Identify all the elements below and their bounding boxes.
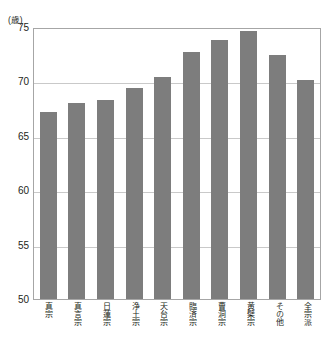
bar-chart-figure: (歳) 505560657075 真宗真言宗日蓮宗浄土宗天台宗臨済宗曹洞宗黄檗宗…	[0, 0, 329, 346]
bar-9	[297, 80, 314, 299]
bar-wrapper	[91, 29, 120, 299]
bar-wrapper	[177, 29, 206, 299]
bar-wrapper	[148, 29, 177, 299]
y-tick-label-60: 60	[1, 186, 29, 196]
bar-3	[126, 88, 143, 299]
y-tick-label-65: 65	[1, 132, 29, 142]
bar-series	[34, 29, 320, 299]
y-tick-label-50: 50	[1, 295, 29, 305]
bar-4	[154, 77, 171, 299]
bar-wrapper	[234, 29, 263, 299]
bar-wrapper	[263, 29, 292, 299]
bar-wrapper	[63, 29, 92, 299]
bar-8	[269, 55, 286, 299]
y-tick-label-70: 70	[1, 77, 29, 87]
bar-7	[240, 31, 257, 299]
y-tick-label-55: 55	[1, 241, 29, 251]
bar-1	[68, 103, 85, 299]
bar-wrapper	[206, 29, 235, 299]
bar-wrapper	[34, 29, 63, 299]
bar-wrapper	[291, 29, 320, 299]
plot-area	[33, 28, 321, 300]
bar-0	[40, 112, 57, 299]
bar-wrapper	[120, 29, 149, 299]
y-tick-label-75: 75	[1, 23, 29, 33]
bar-5	[183, 52, 200, 299]
footnote-text	[6, 339, 306, 346]
bar-6	[211, 40, 228, 299]
bar-2	[97, 100, 114, 299]
